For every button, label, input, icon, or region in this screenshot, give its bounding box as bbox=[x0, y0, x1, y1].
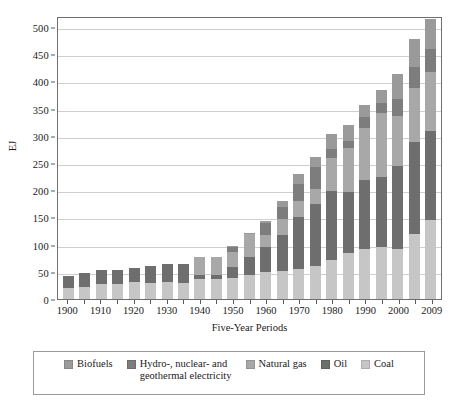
x-axis-tick-mark bbox=[150, 300, 151, 304]
bar-segment bbox=[310, 157, 321, 167]
y-axis-tick-label: 350 bbox=[33, 104, 49, 115]
x-axis-title: Five-Year Periods bbox=[57, 322, 442, 333]
y-axis-tick-label: 150 bbox=[33, 213, 49, 224]
legend-label: Coal bbox=[374, 358, 394, 370]
legend-item[interactable]: Oil bbox=[321, 358, 347, 370]
x-axis-tick-mark bbox=[266, 300, 267, 304]
x-axis-tick-mark bbox=[233, 300, 234, 304]
x-axis-tick-group: 1900191019201930194019501960197019801990… bbox=[57, 300, 442, 322]
bar-column bbox=[392, 74, 403, 299]
plot-area bbox=[57, 17, 442, 300]
bar-segment bbox=[79, 273, 90, 287]
bar-segment bbox=[343, 192, 354, 253]
x-axis-tick-mark bbox=[67, 300, 68, 304]
bar-column bbox=[79, 273, 90, 299]
bar-segment bbox=[392, 116, 403, 166]
x-axis-tick-mark bbox=[432, 300, 433, 304]
legend-item[interactable]: Coal bbox=[361, 358, 394, 370]
energy-consumption-stacked-bar-chart: EJ 050100150200250300350400450500 190019… bbox=[0, 0, 458, 412]
bar-segment bbox=[425, 131, 436, 220]
y-axis-tick-mark bbox=[51, 109, 55, 110]
bar-segment bbox=[376, 90, 387, 103]
x-axis-tick-mark bbox=[134, 300, 135, 304]
bar-column bbox=[129, 268, 140, 299]
y-axis-tick-mark bbox=[51, 136, 55, 137]
y-axis-tick-mark bbox=[51, 163, 55, 164]
x-axis-tick-mark bbox=[183, 300, 184, 304]
bar-segment bbox=[211, 279, 222, 299]
y-axis-tick-mark bbox=[51, 300, 55, 301]
bar-segment bbox=[425, 19, 436, 49]
x-axis-tick-label: 1950 bbox=[222, 305, 243, 316]
y-axis-tick-mark bbox=[51, 82, 55, 83]
bar-column bbox=[96, 270, 107, 299]
y-axis-tick-label: 250 bbox=[33, 158, 49, 169]
bar-segment bbox=[244, 275, 255, 299]
x-axis-tick-label: 2009 bbox=[421, 305, 442, 316]
bar-column bbox=[227, 246, 238, 299]
bar-segment bbox=[326, 158, 337, 191]
bar-segment bbox=[79, 287, 90, 299]
x-axis-tick-mark bbox=[200, 300, 201, 304]
x-axis-tick-label: 1900 bbox=[57, 305, 78, 316]
x-axis-tick-mark bbox=[382, 300, 383, 304]
bar-segment bbox=[310, 266, 321, 299]
legend-label: Hydro-, nuclear- and geothermal electric… bbox=[140, 358, 232, 382]
bar-segment bbox=[326, 191, 337, 260]
bar-segment bbox=[227, 267, 238, 278]
y-axis-tick-mark bbox=[51, 245, 55, 246]
bar-column bbox=[145, 266, 156, 299]
bar-segment bbox=[277, 271, 288, 299]
bar-segment bbox=[96, 270, 107, 284]
legend-item[interactable]: Hydro-, nuclear- and geothermal electric… bbox=[127, 358, 232, 382]
x-axis-tick-mark bbox=[100, 300, 101, 304]
bar-segment bbox=[310, 204, 321, 266]
bar-segment bbox=[409, 234, 420, 299]
x-axis-tick-mark bbox=[332, 300, 333, 304]
x-axis-tick-mark bbox=[283, 300, 284, 304]
x-axis-tick-mark bbox=[349, 300, 350, 304]
bar-segment bbox=[376, 103, 387, 113]
x-axis-tick-mark bbox=[316, 300, 317, 304]
bar-column bbox=[244, 233, 255, 299]
y-axis-tick-label: 300 bbox=[33, 131, 49, 142]
legend-item[interactable]: Biofuels bbox=[64, 358, 113, 370]
bar-segment bbox=[178, 264, 189, 283]
bar-segment bbox=[359, 105, 370, 118]
bar-segment bbox=[260, 223, 271, 235]
y-axis-tick-mark bbox=[51, 191, 55, 192]
x-axis-tick-label: 1990 bbox=[355, 305, 376, 316]
y-axis-tick-label: 500 bbox=[33, 22, 49, 33]
bar-column bbox=[425, 19, 436, 299]
bar-segment bbox=[326, 134, 337, 149]
bar-segment bbox=[359, 117, 370, 128]
legend-label: Biofuels bbox=[77, 358, 113, 370]
bar-column bbox=[310, 157, 321, 299]
bar-column bbox=[194, 257, 205, 299]
bar-segment bbox=[293, 184, 304, 201]
bar-segment bbox=[162, 282, 173, 299]
bar-segment bbox=[145, 266, 156, 282]
bar-segment bbox=[392, 99, 403, 116]
bar-segment bbox=[277, 207, 288, 220]
bar-segment bbox=[277, 219, 288, 235]
y-axis-tick-label: 0 bbox=[44, 295, 49, 306]
bar-segment bbox=[260, 247, 271, 272]
bar-segment bbox=[63, 288, 74, 299]
bar-segment bbox=[343, 148, 354, 192]
bar-segment bbox=[293, 269, 304, 299]
legend-swatch-icon bbox=[361, 360, 370, 369]
bar-column bbox=[277, 201, 288, 299]
y-axis-tick-label: 100 bbox=[33, 240, 49, 251]
y-axis-tick-label: 200 bbox=[33, 186, 49, 197]
bar-segment bbox=[376, 247, 387, 299]
bar-column bbox=[178, 264, 189, 299]
bar-segment bbox=[293, 201, 304, 217]
x-axis-tick-label: 1930 bbox=[156, 305, 177, 316]
x-axis-tick-label: 1970 bbox=[289, 305, 310, 316]
bar-segment bbox=[260, 272, 271, 299]
legend-item[interactable]: Natural gas bbox=[246, 358, 307, 370]
bar-column bbox=[162, 264, 173, 299]
bar-column bbox=[293, 174, 304, 299]
x-axis-tick-mark bbox=[365, 300, 366, 304]
